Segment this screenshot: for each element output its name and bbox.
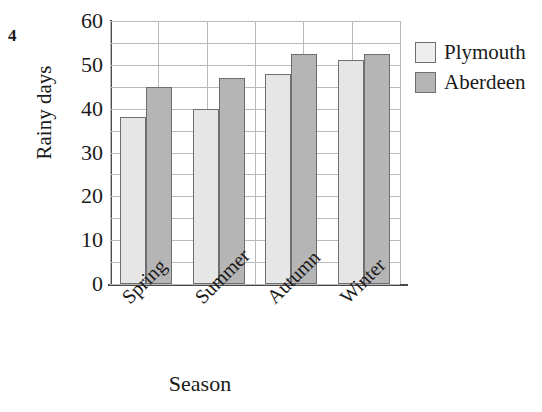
y-tick-label: 20	[55, 185, 103, 207]
legend-label: Plymouth	[444, 42, 526, 63]
bar-spring-plymouth	[120, 117, 146, 284]
legend: PlymouthAberdeen	[415, 38, 526, 98]
y-tick-label: 50	[55, 54, 103, 76]
legend-swatch-icon	[415, 72, 436, 93]
y-tick-label: 40	[55, 98, 103, 120]
plot-area	[110, 21, 400, 284]
gridline-vertical	[400, 21, 401, 284]
bar-winter-plymouth	[338, 60, 364, 284]
legend-item-plymouth: Plymouth	[415, 38, 526, 66]
x-axis-title: Season	[0, 373, 400, 395]
chart-figure: 4 Rainy days 0102030405060 SpringSummerA…	[0, 0, 542, 412]
y-tick-label: 10	[55, 229, 103, 251]
bar-series-group	[110, 21, 400, 284]
bar-summer-plymouth	[193, 109, 219, 284]
bar-spring-aberdeen	[146, 87, 172, 284]
y-tick-label: 60	[55, 10, 103, 32]
legend-swatch-icon	[415, 42, 436, 63]
legend-item-aberdeen: Aberdeen	[415, 68, 526, 96]
bar-autumn-plymouth	[265, 74, 291, 284]
bar-winter-aberdeen	[364, 54, 390, 284]
legend-label: Aberdeen	[444, 72, 526, 93]
y-tick-label: 0	[55, 273, 103, 295]
y-tick-label: 30	[55, 142, 103, 164]
